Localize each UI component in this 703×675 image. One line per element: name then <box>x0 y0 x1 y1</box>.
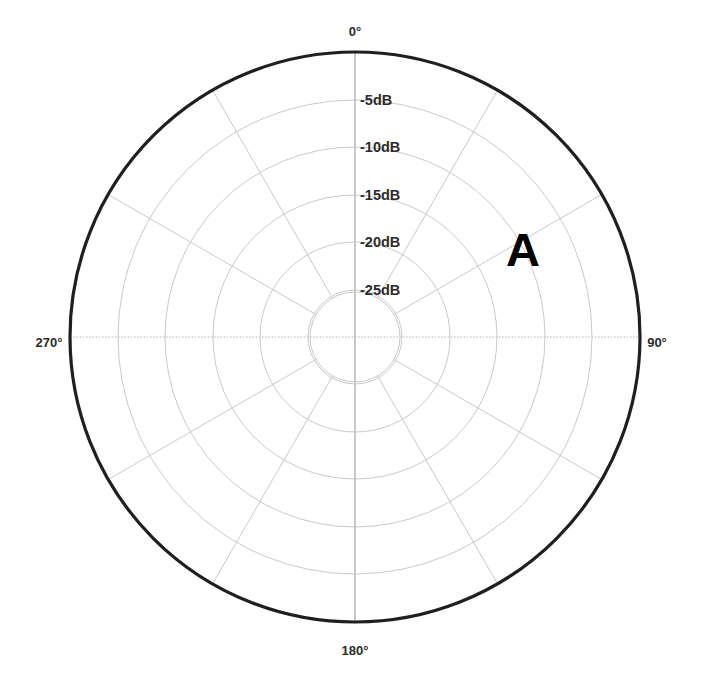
angle-label-180deg: 180° <box>342 643 369 658</box>
radial-tick-label-minus10db: -10dB <box>360 139 400 155</box>
radial-tick-labels-group: -5dB -10dB -15dB -20dB -25dB <box>360 92 400 298</box>
angle-label-270deg: 270° <box>36 335 63 350</box>
radial-tick-label-minus5db: -5dB <box>360 92 392 108</box>
polar-plot-svg: -5dB -10dB -15dB -20dB -25dB 0° 90° 180°… <box>0 0 703 675</box>
angle-label-90deg: 90° <box>647 335 667 350</box>
angle-label-0deg: 0° <box>349 24 361 39</box>
radial-tick-label-minus15db: -15dB <box>360 187 400 203</box>
radial-tick-label-minus20db: -20dB <box>360 234 400 250</box>
principal-axes-group <box>70 52 640 622</box>
polar-plot-figure: -5dB -10dB -15dB -20dB -25dB 0° 90° 180°… <box>0 0 703 675</box>
trace-annotation-a: A <box>506 223 540 276</box>
angular-tick-labels-group: 0° 90° 180° 270° <box>36 24 667 658</box>
radial-tick-label-minus25db: -25dB <box>360 282 400 298</box>
